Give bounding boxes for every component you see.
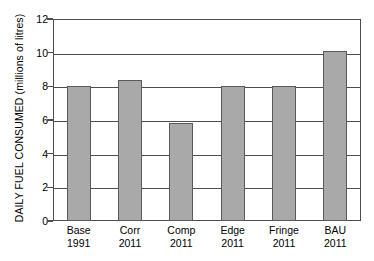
x-tick-label-0-name: Base (53, 224, 104, 237)
y-tick-label-0: 0 (18, 216, 48, 226)
x-axis-labels: Base1991Corr2011Comp2011Edge2011Fringe20… (53, 224, 361, 258)
bar-3 (221, 86, 245, 221)
x-tick-label-2-year: 2011 (156, 237, 207, 250)
bar-4 (272, 86, 296, 221)
x-tick-label-0: Base1991 (53, 224, 104, 249)
x-tick-label-1-name: Corr (104, 224, 155, 237)
bar-5 (323, 51, 347, 221)
y-tick-label-6: 6 (18, 115, 48, 125)
bar-chart: DAILY FUEL CONSUMED (millions of litres)… (0, 0, 374, 261)
x-tick-label-5-year: 2011 (310, 237, 361, 250)
x-tick-label-4-year: 2011 (258, 237, 309, 250)
bar-1 (118, 80, 142, 221)
x-tick-label-1-year: 2011 (104, 237, 155, 250)
x-tick-label-2-name: Comp (156, 224, 207, 237)
bar-2 (169, 123, 193, 221)
y-tick-label-12: 12 (18, 14, 48, 24)
x-tick-label-5: BAU2011 (310, 224, 361, 249)
y-tick-label-2: 2 (18, 182, 48, 192)
x-tick-label-3-year: 2011 (207, 237, 258, 250)
x-tick-label-5-name: BAU (310, 224, 361, 237)
x-tick-label-2: Comp2011 (156, 224, 207, 249)
bar-0 (67, 86, 91, 221)
bars-group (53, 19, 361, 221)
x-tick-label-4-name: Fringe (258, 224, 309, 237)
y-tick-label-4: 4 (18, 149, 48, 159)
x-tick-label-3-name: Edge (207, 224, 258, 237)
x-tick-label-4: Fringe2011 (258, 224, 309, 249)
y-tick-label-8: 8 (18, 81, 48, 91)
x-tick-label-0-year: 1991 (53, 237, 104, 250)
y-tick-label-10: 10 (18, 48, 48, 58)
x-tick-label-3: Edge2011 (207, 224, 258, 249)
x-tick-label-1: Corr2011 (104, 224, 155, 249)
